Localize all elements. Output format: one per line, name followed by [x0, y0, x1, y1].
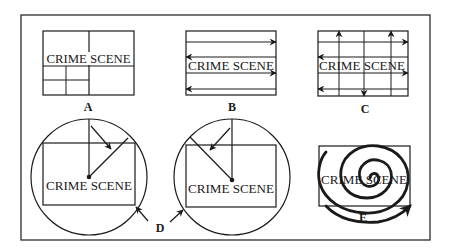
panel-d2-wheel-search: CRIME SCENE [170, 119, 290, 235]
panel-c-scene-text: CRIME SCENE [319, 59, 405, 73]
panel-d1-wheel-search: CRIME SCENE [31, 119, 148, 235]
panel-c-label: C [361, 102, 370, 116]
panel-e-label: E [359, 211, 367, 225]
panel-d1-scene-text: CRIME SCENE [46, 179, 132, 193]
panel-d-label: D [156, 221, 165, 235]
panel-a-scene-text: CRIME SCENE [47, 52, 131, 66]
panel-d2-scene-text: CRIME SCENE [188, 182, 274, 196]
panel-b-label: B [228, 100, 236, 114]
panel-c-grid-search: CRIME SCENE C [318, 31, 408, 116]
panel-b-scene-text: CRIME SCENE [188, 59, 274, 73]
panel-b-strip-search: CRIME SCENE B [186, 31, 276, 114]
panel-a-label: A [84, 100, 93, 114]
panel-a-quadrant-search: CRIME SCENE A [43, 31, 134, 114]
panel-e-spiral-search: CRIME SCENE E [319, 146, 410, 225]
search-patterns-diagram: CRIME SCENE A CRIME SCENE B CRIME SCENE … [0, 0, 449, 252]
